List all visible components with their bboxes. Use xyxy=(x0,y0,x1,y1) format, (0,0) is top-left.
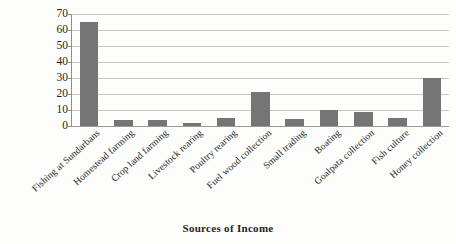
bar xyxy=(251,92,270,126)
bar-slot xyxy=(415,14,449,126)
bar-slot xyxy=(175,14,209,126)
y-axis-tick-label: 40 xyxy=(40,56,68,68)
bar-slot xyxy=(141,14,175,126)
bar-slot xyxy=(380,14,414,126)
bar-slot xyxy=(346,14,380,126)
bar xyxy=(388,118,407,126)
y-axis-tick-label: 20 xyxy=(40,88,68,100)
bar xyxy=(285,119,304,126)
x-axis-tick-label: Goalpata collection xyxy=(312,127,376,187)
y-axis-tick-label: 30 xyxy=(40,72,68,84)
bar-slot xyxy=(278,14,312,126)
x-axis-title: Sources of Income xyxy=(0,222,456,234)
bar-slot xyxy=(312,14,346,126)
bar xyxy=(114,120,133,126)
bar-series xyxy=(72,14,449,126)
bar-chart-figure: Percentage 706050403020100 Fishing at Su… xyxy=(0,0,456,244)
bar xyxy=(423,78,442,126)
y-axis-tick-label: 10 xyxy=(40,104,68,116)
y-axis-tick-label: 0 xyxy=(40,120,68,132)
bar xyxy=(183,123,202,126)
bar xyxy=(80,22,99,126)
x-axis-tick-label: Boating xyxy=(312,127,342,156)
bar xyxy=(217,118,236,126)
bar-slot xyxy=(243,14,277,126)
x-axis-tick-label: Homestead farming xyxy=(71,127,136,187)
bar xyxy=(148,120,167,126)
plot-area xyxy=(71,14,449,126)
bar-slot xyxy=(209,14,243,126)
x-axis-tick-labels: Fishing at SundarbansHomestead farmingCr… xyxy=(71,127,449,209)
y-axis-tick-label: 70 xyxy=(40,8,68,20)
bar-slot xyxy=(72,14,106,126)
bar xyxy=(320,110,339,126)
y-axis-tick-label: 50 xyxy=(40,40,68,52)
bar-slot xyxy=(106,14,140,126)
bar xyxy=(354,112,373,126)
y-axis-tick-label: 60 xyxy=(40,24,68,36)
y-axis-tick-labels: 706050403020100 xyxy=(40,14,68,126)
